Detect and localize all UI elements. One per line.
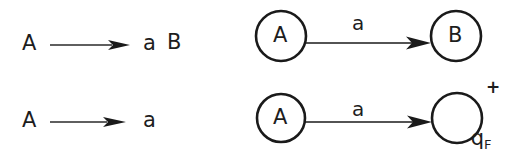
production-arrow-1 bbox=[50, 40, 130, 50]
edge-label-symbol-2: a bbox=[352, 99, 364, 119]
figure-root: B) ---------- --> qF accepting) --------… bbox=[0, 0, 513, 162]
production-arrow-2 bbox=[50, 117, 126, 127]
state-label-a-2: A bbox=[273, 107, 287, 128]
state-label-b: B bbox=[448, 25, 462, 46]
production-1-rhs-nonterminal: B bbox=[167, 32, 182, 53]
state-label-qf-subscript: F bbox=[484, 137, 491, 152]
accepting-state-plus-marker: + bbox=[486, 79, 500, 96]
production-2-lhs: A bbox=[22, 110, 37, 131]
state-label-qf-base: q bbox=[471, 126, 484, 150]
figure-vector-layer: B) ---------- --> qF accepting) --------… bbox=[0, 0, 513, 162]
edge-label-symbol-1: a bbox=[352, 13, 364, 33]
state-label-qf: qF bbox=[444, 107, 492, 162]
production-2-rhs-terminal: a bbox=[143, 110, 156, 131]
production-1-rhs-terminal: a bbox=[143, 33, 156, 54]
state-label-a-1: A bbox=[273, 25, 287, 46]
production-1-lhs: A bbox=[22, 33, 37, 54]
